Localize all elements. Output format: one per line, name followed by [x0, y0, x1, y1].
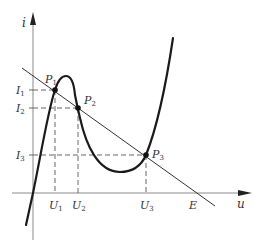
p3-label: P3: [151, 148, 164, 162]
i1-label: I1: [15, 84, 25, 98]
y-axis-label: i: [22, 16, 26, 30]
i2-label: I2: [15, 102, 25, 116]
e-label: E: [188, 199, 197, 212]
load-line: [22, 68, 215, 206]
ticks: [29, 90, 33, 155]
p1-label: P1: [44, 73, 57, 87]
i-axis-arrow-icon: [30, 12, 36, 25]
i3-label: I3: [15, 149, 25, 163]
u3-label: U3: [140, 199, 154, 213]
iv-diagram: i u P1 P2 P3 I1 I2 I3 U1 U2 U3 E: [0, 0, 266, 245]
u2-label: U2: [72, 199, 86, 213]
p1-dot: [52, 87, 58, 93]
operating-point-markers: [52, 87, 149, 158]
p2-label: P2: [83, 94, 96, 108]
p3-dot: [143, 152, 149, 158]
u1-label: U1: [49, 199, 63, 213]
u-axis-arrow-icon: [238, 190, 252, 196]
x-axis-label: u: [237, 197, 245, 211]
p2-dot: [75, 105, 81, 111]
axes: [12, 12, 252, 240]
iv-curve: [26, 38, 173, 225]
